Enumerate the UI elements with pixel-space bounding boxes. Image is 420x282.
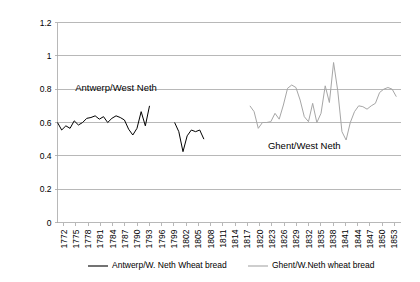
series-line (175, 123, 204, 152)
legend: Antwerp/W. Neth Wheat breadGhent/W.Neth … (88, 260, 375, 270)
xtick-label: 1793 (144, 229, 154, 248)
ytick-label: 0.2 (40, 184, 52, 194)
ytick-label: 0.6 (40, 118, 52, 128)
annotation-label-1: Ghent/West Neth (268, 140, 341, 151)
ytick-label: 0.8 (40, 84, 52, 94)
xtick-label: 1775 (71, 229, 81, 248)
xtick-label: 1814 (230, 229, 240, 248)
gridlines: 00.20.40.60.811.2 (40, 18, 401, 228)
annotation-label-0: Antwerp/West Neth (75, 82, 157, 93)
xtick-label: 1844 (353, 229, 363, 248)
xtick-label: 1808 (206, 229, 216, 248)
legend-label-1: Ghent/W.Neth wheat bread (272, 260, 375, 270)
series-1 (250, 63, 396, 141)
ytick-label: 1.2 (40, 18, 52, 28)
xtick-label: 1841 (340, 229, 350, 248)
xtick-label: 1826 (279, 229, 289, 248)
line-chart: 00.20.40.60.811.217721775177817811784178… (0, 0, 420, 282)
xtick-label: 1832 (304, 229, 314, 248)
xtick-label: 1784 (108, 229, 118, 248)
xtick-label: 1853 (389, 229, 399, 248)
xtick-label: 1787 (120, 229, 130, 248)
xtick-label: 1799 (169, 229, 179, 248)
xtick-label: 1805 (193, 229, 203, 248)
xtick-label: 1781 (95, 229, 105, 248)
xtick-label: 1790 (132, 229, 142, 248)
xtick-label: 1829 (291, 229, 301, 248)
xtick-label: 1850 (377, 229, 387, 248)
series-line (250, 63, 396, 141)
xtick-label: 1778 (83, 229, 93, 248)
ytick-label: 0 (47, 218, 52, 228)
xtick-label: 1847 (365, 229, 375, 248)
xtick-label: 1820 (255, 229, 265, 248)
xtick-label: 1796 (157, 229, 167, 248)
series-0 (58, 106, 204, 152)
xtick-label: 1835 (316, 229, 326, 248)
ytick-label: 1 (47, 51, 52, 61)
legend-label-0: Antwerp/W. Neth Wheat bread (112, 260, 227, 270)
xtick-label: 1817 (242, 229, 252, 248)
ytick-label: 0.4 (40, 151, 52, 161)
chart-canvas: 00.20.40.60.811.217721775177817811784178… (0, 0, 420, 282)
series-line (58, 106, 150, 135)
xtick-label: 1772 (59, 229, 69, 248)
xtick-label: 1838 (328, 229, 338, 248)
xtick-label: 1823 (267, 229, 277, 248)
xtick-label: 1811 (218, 229, 228, 248)
xtick-label: 1802 (181, 229, 191, 248)
x-axis: 1772177517781781178417871790179317961799… (59, 223, 400, 249)
